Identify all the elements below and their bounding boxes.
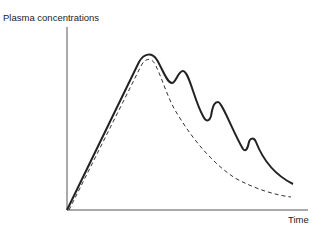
solid-curve bbox=[67, 55, 293, 210]
plasma-concentration-chart bbox=[0, 0, 322, 232]
dashed-curve bbox=[69, 59, 291, 210]
